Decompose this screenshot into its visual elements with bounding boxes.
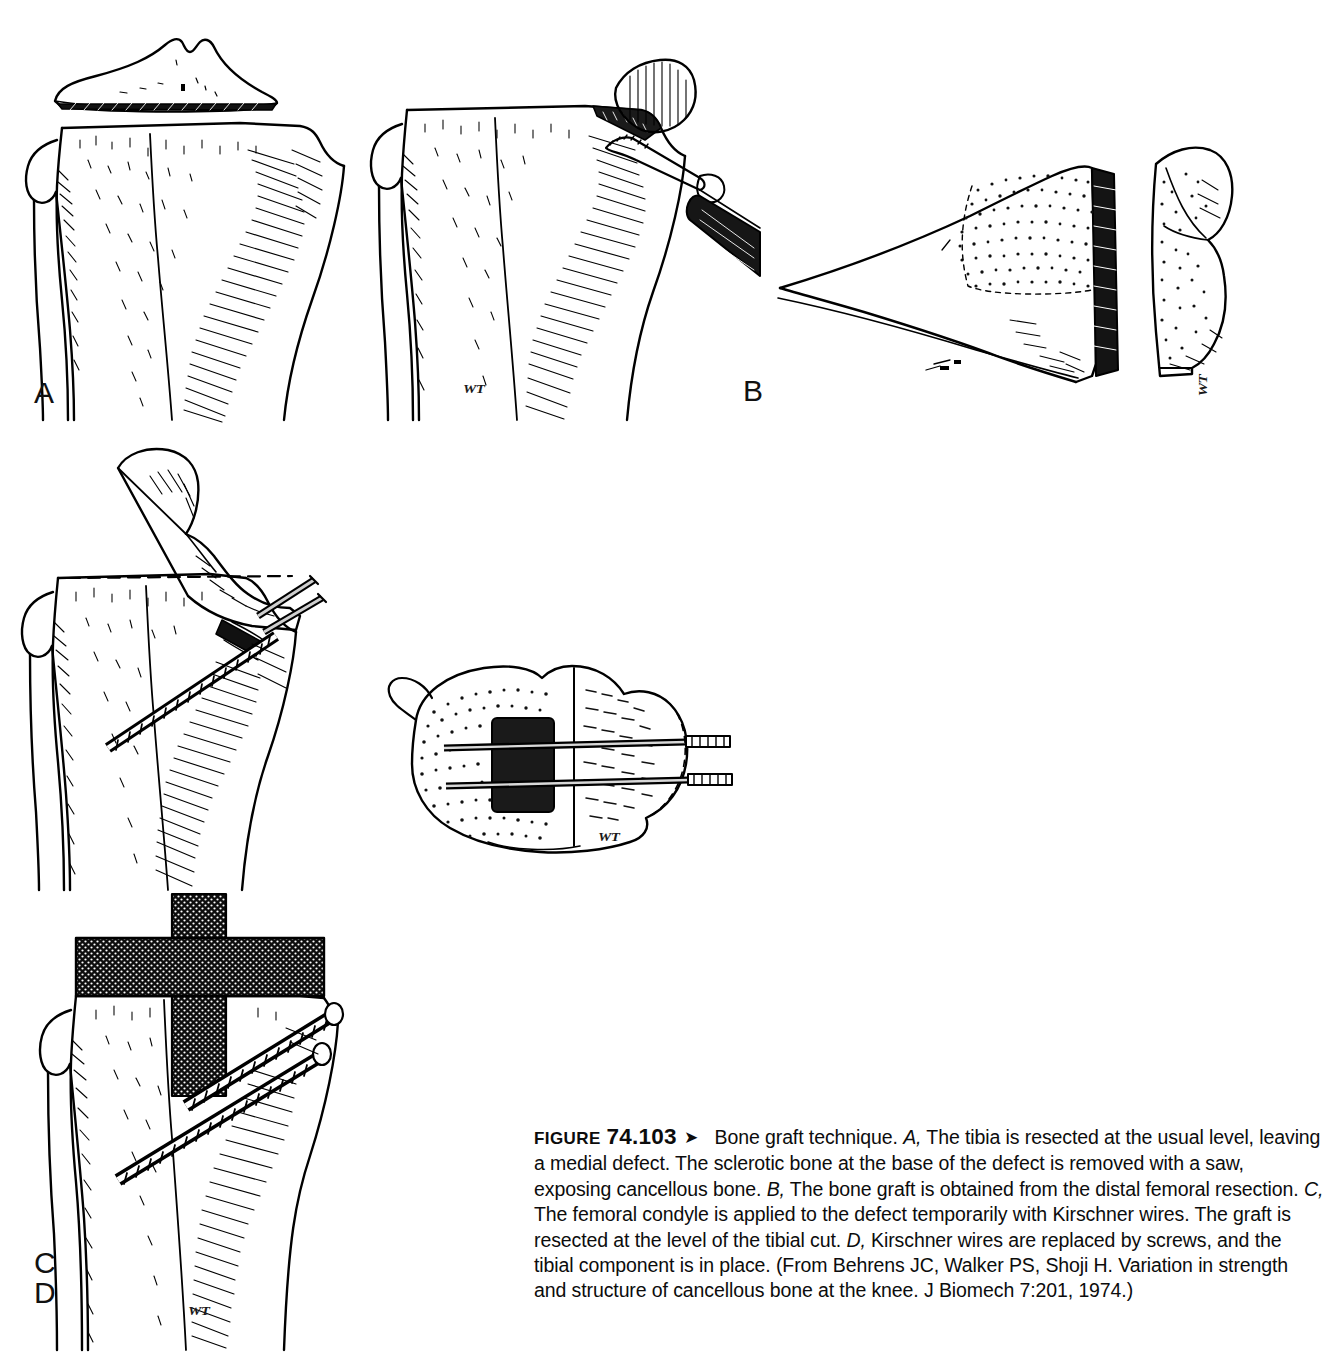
cancellous-boundary <box>962 186 1092 294</box>
arrowhead-icon: ➤ <box>677 1128 703 1147</box>
plateau-cut-surface <box>58 103 276 110</box>
panel-c-illustration <box>0 430 760 890</box>
fibular-head-shading <box>58 170 79 370</box>
caption-text: The bone graft is obtained from the dist… <box>785 1178 1304 1200</box>
figure-page: A WT <box>0 0 1327 1367</box>
figure-label-word: FIGURE <box>534 1129 601 1148</box>
panel-a-signature: WT <box>463 383 485 396</box>
resected-plateau-wafer <box>55 39 277 111</box>
panel-c: C WT <box>0 430 760 890</box>
femur-surface-marks <box>926 240 950 370</box>
panel-d-illustration <box>0 880 420 1350</box>
panel-b-illustration <box>740 120 1327 430</box>
panel-d-letter: D <box>34 1278 56 1308</box>
tibia-shading-c <box>156 644 286 886</box>
axial-kirschner-wires <box>444 736 732 786</box>
tibia-shading-view1 <box>184 150 322 422</box>
caption-panel-letter: A, <box>903 1126 921 1148</box>
screw-head-lower <box>313 1043 331 1065</box>
figure-caption: FIGURE 74.103➤Bone graft technique. A, T… <box>534 1124 1324 1304</box>
panel-a-illustration <box>0 0 760 420</box>
caption-panel-letter: C, <box>1304 1178 1323 1200</box>
caption-panel-letter: B, <box>767 1178 785 1200</box>
figure-title: Bone graft technique. <box>715 1126 898 1148</box>
figure-number: 74.103 <box>607 1124 677 1149</box>
wafer-texture <box>120 60 217 96</box>
caption-panel-letter: D, <box>846 1229 865 1251</box>
axial-plateau-view <box>389 666 732 853</box>
proximal-tibia-view1 <box>26 123 344 420</box>
screw-c <box>108 636 276 750</box>
graft-stipple <box>1160 173 1207 360</box>
panel-b: B WT <box>740 120 1327 430</box>
panel-c-signature: WT <box>598 831 620 844</box>
tibia-shading-view2 <box>526 136 645 419</box>
panel-b-letter: B <box>743 376 764 406</box>
panel-a: A WT <box>0 0 760 420</box>
panel-b-signature: WT <box>1196 375 1209 397</box>
proximal-tibia-view2 <box>371 106 685 420</box>
distal-femur-profile <box>778 166 1118 382</box>
panel-d: D WT <box>0 880 420 1350</box>
panel-a-letter: A <box>34 378 55 408</box>
figure-label: FIGURE 74.103 <box>534 1126 677 1148</box>
panel-d-signature: WT <box>188 1305 210 1318</box>
figure-caption-body: A, The tibia is resected at the usual le… <box>534 1126 1323 1301</box>
femur-cancellous-stipple <box>959 174 1094 287</box>
